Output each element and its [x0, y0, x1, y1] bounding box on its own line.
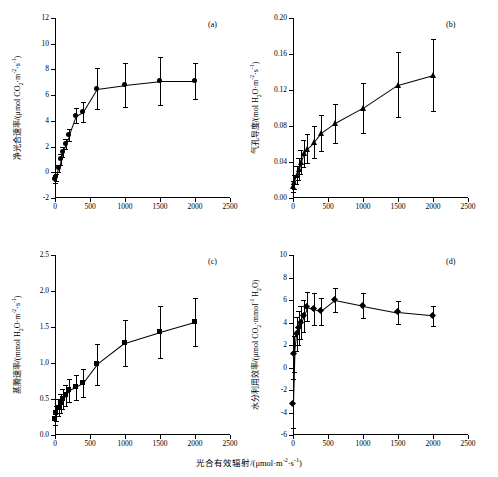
error-bar-cap [319, 115, 324, 116]
y-tick [51, 198, 55, 199]
x-tick-label: 2000 [417, 203, 449, 211]
data-point [80, 380, 85, 385]
error-bar-cap [193, 346, 198, 347]
data-point [157, 329, 162, 334]
error-bar-cap [95, 385, 100, 386]
error-bar-cap [53, 425, 58, 426]
x-tick-label: 2500 [214, 440, 246, 448]
y-tick [51, 435, 55, 436]
error-bar-cap [298, 174, 303, 175]
error-bar-cap [431, 39, 436, 40]
data-point [73, 384, 78, 389]
error-bar-cap [292, 372, 297, 373]
data-point [360, 303, 365, 308]
data-point [301, 313, 306, 318]
x-tick-label: 0 [277, 203, 309, 211]
y-axis-label: 蒸腾速率/(mmol H2O·m-2·s-1) [11, 255, 24, 435]
error-bar-cap [296, 345, 301, 346]
data-point [290, 401, 295, 406]
error-bar-cap [361, 293, 366, 294]
error-bar-cap [396, 301, 401, 302]
y-tick [289, 255, 293, 256]
data-point [66, 387, 71, 392]
data-point [311, 306, 316, 311]
y-tick [51, 44, 55, 45]
error-bar-cap [74, 375, 79, 376]
y-axis-label: 水分利用效率/(μmol CO2·mmol-1 H2O) [249, 255, 262, 435]
x-tick-label: 1000 [109, 440, 141, 448]
error-bar-cap [301, 140, 306, 141]
y-tick [289, 54, 293, 55]
y-tick [51, 291, 55, 292]
error-bar-cap [123, 63, 128, 64]
x-tick-label: 0 [277, 440, 309, 448]
error-bar-cap [95, 68, 100, 69]
error-bar-cap [301, 300, 306, 301]
error-bar-cap [312, 158, 317, 159]
error-bar-cap [60, 147, 65, 148]
error-bar-cap [158, 105, 163, 106]
data-point [430, 72, 436, 78]
error-bar-cap [81, 122, 86, 123]
data-point [53, 174, 58, 179]
error-bar-cap [431, 111, 436, 112]
error-bar-cap [67, 129, 72, 130]
error-bar-cap [319, 151, 324, 152]
y-tick [289, 278, 293, 279]
data-point [332, 297, 337, 302]
y-tick [289, 90, 293, 91]
x-tick-label: 1500 [382, 203, 414, 211]
y-tick [289, 18, 293, 19]
error-bar-cap [58, 413, 63, 414]
error-bar-cap [312, 126, 317, 127]
x-tick-label: 0 [39, 440, 71, 448]
y-tick [289, 368, 293, 369]
error-bar-cap [158, 306, 163, 307]
data-point [395, 82, 401, 88]
error-bar-cap [56, 172, 61, 173]
error-bar-cap [333, 143, 338, 144]
error-bar-cap [305, 134, 310, 135]
y-tick [289, 323, 293, 324]
error-bar-cap [53, 183, 58, 184]
data-point [318, 308, 323, 313]
data-point [94, 86, 99, 91]
y-tick [289, 435, 293, 436]
data-point [311, 139, 317, 145]
error-bar-cap [305, 292, 310, 293]
x-tick-label: 1500 [382, 440, 414, 448]
error-bar-cap [158, 358, 163, 359]
plot-area [55, 255, 230, 435]
x-tick-label: 0 [39, 203, 71, 211]
data-point [332, 120, 338, 126]
x-tick-label: 2500 [452, 203, 484, 211]
y-tick [51, 95, 55, 96]
error-bar-cap [74, 123, 79, 124]
data-point [298, 320, 303, 325]
x-tick-label: 2000 [417, 440, 449, 448]
x-tick-label: 2500 [214, 203, 246, 211]
panel-label: (d) [446, 257, 455, 266]
error-bar-cap [333, 312, 338, 313]
error-bar-cap [291, 379, 296, 380]
y-tick [51, 18, 55, 19]
error-bar-cap [63, 385, 68, 386]
error-bar-cap [431, 306, 436, 307]
error-bar-cap [294, 351, 299, 352]
error-bar-cap [60, 389, 65, 390]
y-tick [51, 255, 55, 256]
x-tick-label: 2000 [179, 440, 211, 448]
y-tick [289, 300, 293, 301]
error-bar-cap [56, 416, 61, 417]
data-point [430, 313, 435, 318]
error-bar-cap [60, 409, 65, 410]
error-bar-cap [81, 369, 86, 370]
x-tick-label: 2000 [179, 203, 211, 211]
y-axis-label: 净光合速率/(μmol CO2·m-2·s-1) [11, 18, 24, 198]
error-bar-cap [291, 192, 296, 193]
plot-area [293, 255, 468, 435]
data-point [304, 146, 310, 152]
y-tick [289, 198, 293, 199]
error-bar-cap [193, 63, 198, 64]
error-bar-cap [396, 52, 401, 53]
